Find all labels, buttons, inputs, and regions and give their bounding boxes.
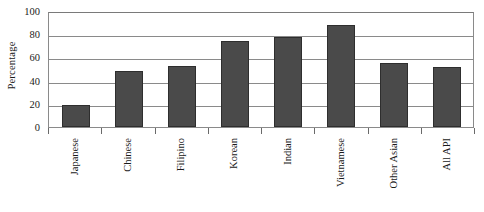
bar-slot <box>49 13 102 127</box>
y-axis-tick-label: 100 <box>24 7 40 18</box>
x-axis-label-slot: Indian <box>261 136 314 210</box>
bar-slot <box>261 13 314 127</box>
x-axis-ticks <box>48 128 474 134</box>
x-axis-tick <box>314 128 315 134</box>
y-axis-tick-labels: 100806040200 <box>18 12 44 128</box>
bar-slot <box>367 13 420 127</box>
x-axis-label-slot: Japanese <box>48 136 101 210</box>
y-axis-tick-label: 40 <box>30 76 41 87</box>
bar-slot <box>102 13 155 127</box>
x-axis-label-slot: Chinese <box>101 136 154 210</box>
x-axis-label-slot: Korean <box>208 136 261 210</box>
x-axis-tick <box>208 128 209 134</box>
plot-area <box>48 12 474 128</box>
x-axis-tick-label: Filipino <box>176 138 187 171</box>
bar-filipino[interactable] <box>168 66 196 127</box>
x-axis-tick-label: All API <box>442 138 453 170</box>
bar-slot <box>420 13 473 127</box>
x-axis-label-slot: All API <box>421 136 474 210</box>
x-axis-tick <box>155 128 156 134</box>
bar-chinese[interactable] <box>115 71 143 127</box>
bar-slot <box>155 13 208 127</box>
bar-japanese[interactable] <box>62 105 90 127</box>
x-axis-label-slot: Vietnamese <box>314 136 367 210</box>
x-axis-tick <box>421 128 422 134</box>
x-axis-tick-label: Vietnamese <box>336 138 347 187</box>
y-axis-title-label: Percentage <box>6 41 17 89</box>
y-axis-tick-label: 0 <box>35 123 40 134</box>
bar-korean[interactable] <box>221 41 249 127</box>
bar-all-api[interactable] <box>433 67 461 127</box>
x-axis-tick <box>48 128 49 134</box>
x-axis-label-slot: Other Asian <box>368 136 421 210</box>
y-axis-tick-label: 60 <box>30 53 41 64</box>
x-axis-label-slot: Filipino <box>155 136 208 210</box>
x-axis-tick-label: Korean <box>229 138 240 169</box>
bar-chart-figure: Percentage 100806040200 JapaneseChineseF… <box>0 0 484 212</box>
x-axis-tick-label: Japanese <box>69 138 80 175</box>
x-axis-tick-label: Chinese <box>123 138 134 172</box>
x-axis-tick <box>101 128 102 134</box>
x-axis-tick-label: Indian <box>282 138 293 165</box>
bar-indian[interactable] <box>274 37 302 127</box>
x-axis-tick-label: Other Asian <box>389 138 400 188</box>
x-axis-tick <box>474 128 475 134</box>
bars-layer <box>49 13 473 127</box>
bar-slot <box>314 13 367 127</box>
y-axis-tick-label: 20 <box>30 100 41 111</box>
bar-other-asian[interactable] <box>380 63 408 127</box>
x-axis-tick <box>368 128 369 134</box>
bar-slot <box>208 13 261 127</box>
x-axis-tick-labels: JapaneseChineseFilipinoKoreanIndianVietn… <box>48 136 474 210</box>
x-axis-tick <box>261 128 262 134</box>
bar-vietnamese[interactable] <box>327 25 355 127</box>
y-axis-tick-label: 80 <box>30 30 41 41</box>
